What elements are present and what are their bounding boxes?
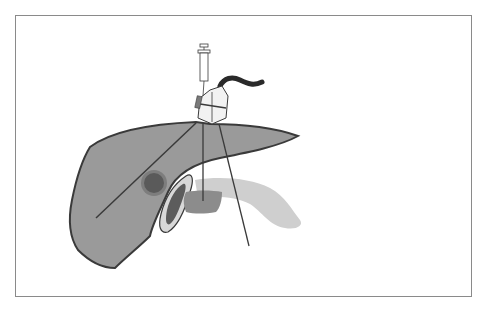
- probe-cable: [220, 78, 262, 86]
- lesion-core: [144, 173, 164, 193]
- liver-biopsy-illustration: [0, 0, 485, 309]
- syringe: [198, 44, 210, 96]
